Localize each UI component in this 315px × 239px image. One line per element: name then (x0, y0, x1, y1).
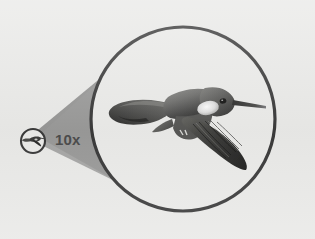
zoom-factor-label: 10x (55, 132, 81, 147)
screenshot-root: 10x (0, 0, 315, 239)
hummingbird-eye-catchlight (221, 99, 223, 101)
source-thumbnail[interactable] (21, 129, 45, 153)
magnified-circle[interactable] (91, 27, 275, 211)
magnifier-scene (0, 0, 315, 239)
thumb-throat-patch (34, 139, 37, 141)
